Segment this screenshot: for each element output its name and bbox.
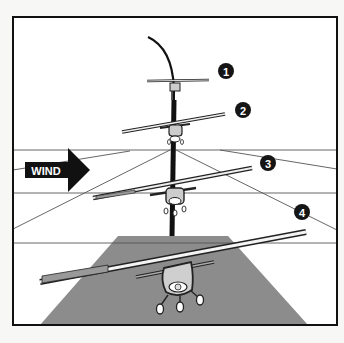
svg-text:4: 4 — [299, 207, 306, 219]
wind-label: WIND — [31, 165, 60, 177]
step-badge-3: 3 — [260, 155, 276, 171]
svg-text:3: 3 — [265, 158, 271, 170]
step-badge-1: 1 — [218, 63, 234, 79]
step-badge-2: 2 — [235, 102, 251, 118]
svg-text:2: 2 — [240, 105, 246, 117]
step-badge-4: 4 — [294, 204, 310, 220]
crosswind-landing-diagram: WIND 1 2 3 4 — [0, 0, 344, 343]
svg-text:1: 1 — [223, 66, 229, 78]
